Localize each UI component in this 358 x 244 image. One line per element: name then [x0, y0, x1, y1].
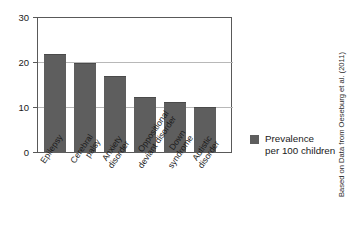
- x-label-epilepsy-line1: Epilepsy: [39, 133, 65, 165]
- x-label-epilepsy: Epilepsy: [39, 133, 65, 165]
- prevalence-series-swatch: [250, 135, 259, 144]
- source-credit: Based on Data from Oeseburg et al. (2011…: [338, 52, 346, 197]
- x-axis-labels: Epilepsy Cerebral palsy Anxiety disorder…: [0, 0, 358, 244]
- x-label-cerebral-palsy: Cerebral palsy: [69, 133, 103, 171]
- legend-label: Prevalence per 100 children: [265, 133, 335, 156]
- legend-label-line2: per 100 children: [265, 145, 335, 157]
- x-label-anxiety-disorder: Anxiety disorder: [99, 134, 132, 170]
- legend-label-line1: Prevalence: [265, 133, 335, 145]
- chart-legend: Prevalence per 100 children: [250, 133, 335, 156]
- bar-chart-figure: 30 20 10 0 Epilepsy Cerebral palsy Anxie…: [0, 0, 358, 244]
